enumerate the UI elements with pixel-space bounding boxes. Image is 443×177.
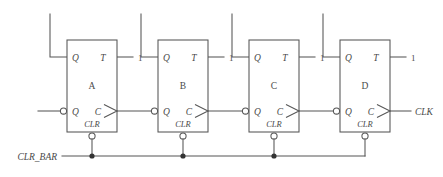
clr-bar-bus: CLR_BAR bbox=[17, 152, 365, 162]
constant-one-label-d: 1 bbox=[411, 53, 416, 63]
pin-label-qbar-d: Q bbox=[345, 107, 352, 117]
pin-label-t-d: T bbox=[373, 53, 379, 63]
flipflop-name-d: D bbox=[362, 81, 369, 91]
clk-label: CLK bbox=[415, 107, 434, 117]
flipflop-name-a: A bbox=[89, 81, 96, 91]
clr-bubble-b bbox=[180, 133, 186, 139]
pin-label-qbar-b: Q bbox=[163, 107, 170, 117]
qbar-bubble-b bbox=[151, 108, 157, 114]
pin-label-clr-c: CLR bbox=[266, 119, 282, 129]
pin-label-c-d: C bbox=[368, 107, 375, 117]
pin-label-c-c: C bbox=[277, 107, 284, 117]
clr-bubble-d bbox=[362, 133, 368, 139]
circuit-diagram: 1 Q T A Q C CLR 1 bbox=[0, 0, 443, 177]
junction-dot-c bbox=[271, 153, 276, 158]
pin-label-t-c: T bbox=[282, 53, 288, 63]
flipflop-name-c: C bbox=[271, 81, 277, 91]
junction-dot-a bbox=[89, 153, 94, 158]
pin-label-clr-b: CLR bbox=[175, 119, 191, 129]
qbar-bubble-d bbox=[333, 108, 339, 114]
flipflop-b: 1 Q T B Q C CLR bbox=[117, 14, 234, 156]
circuit-canvas: 1 Q T A Q C CLR 1 bbox=[0, 0, 443, 177]
pin-label-t-a: T bbox=[100, 53, 106, 63]
pin-label-clr-d: CLR bbox=[357, 119, 373, 129]
pin-label-clr-a: CLR bbox=[84, 119, 100, 129]
clr-bubble-c bbox=[271, 133, 277, 139]
pin-label-qbar-c: Q bbox=[254, 107, 261, 117]
pin-label-q-c: Q bbox=[254, 53, 261, 63]
clr-bar-label: CLR_BAR bbox=[17, 152, 57, 162]
pin-label-c-b: C bbox=[186, 107, 193, 117]
qbar-bubble-c bbox=[242, 108, 248, 114]
pin-label-t-b: T bbox=[191, 53, 197, 63]
flipflop-a: 1 Q T A Q C CLR bbox=[38, 14, 143, 156]
flipflop-d: 1 CLK Q T D Q C CLR bbox=[299, 14, 434, 156]
pin-label-q-b: Q bbox=[163, 53, 170, 63]
junction-dot-b bbox=[180, 153, 185, 158]
pin-label-q-a: Q bbox=[72, 53, 79, 63]
flipflop-name-b: B bbox=[180, 81, 186, 91]
clr-bubble-a bbox=[89, 133, 95, 139]
pin-label-qbar-a: Q bbox=[72, 107, 79, 117]
wire-q-out-a bbox=[50, 14, 67, 57]
pin-label-c-a: C bbox=[95, 107, 102, 117]
wire-q-out-d bbox=[323, 14, 340, 57]
wire-q-out-c bbox=[232, 14, 249, 57]
pin-label-q-d: Q bbox=[345, 53, 352, 63]
wire-q-out-b bbox=[141, 14, 158, 57]
qbar-bubble-a bbox=[60, 108, 66, 114]
flipflop-c: 1 Q T C Q C CLR bbox=[208, 14, 325, 156]
